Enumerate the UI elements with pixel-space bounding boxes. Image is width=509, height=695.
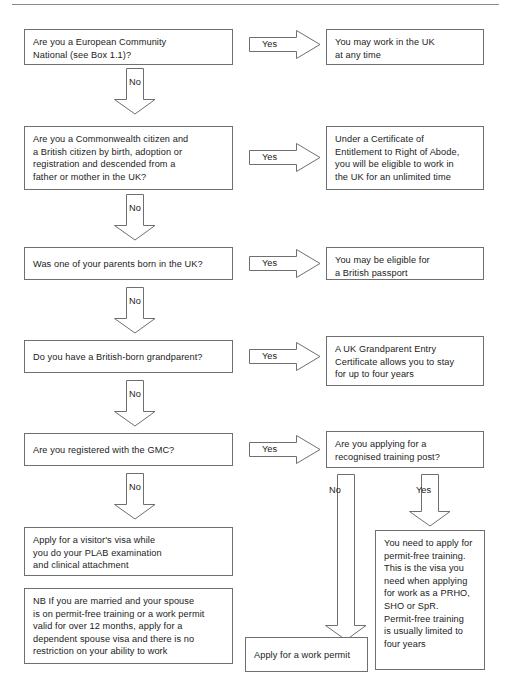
arrow-label-yes-training-post: Yes: [416, 486, 431, 495]
header-rule: [12, 4, 499, 5]
arrow-no-row2: [114, 194, 156, 241]
node-result-nb-spouse: NB If you are married and your spouse is…: [24, 588, 233, 664]
node-result-permit-free-training: You need to apply for permit-free traini…: [375, 530, 485, 670]
arrow-label-yes-row1: Yes: [262, 40, 277, 49]
arrow-label-yes-row2: Yes: [262, 153, 277, 162]
node-result-right-of-abode: Under a Certificate of Entitlement to Ri…: [326, 126, 484, 190]
arrow-yes-training-post: [409, 474, 451, 527]
arrow-yes-row3: [249, 249, 321, 279]
arrow-label-yes-row4: Yes: [262, 352, 277, 361]
arrow-yes-row2: [249, 143, 321, 173]
node-question-parent-born-uk: Was one of your parents born in the UK?: [24, 247, 233, 280]
arrow-yes-row5: [249, 435, 321, 465]
node-question-commonwealth: Are you a Commonwealth citizen and a Bri…: [24, 126, 233, 190]
node-question-ec-national: Are you a European Community National (s…: [24, 29, 233, 65]
node-result-grandparent-entry: A UK Grandparent Entry Certificate allow…: [326, 336, 484, 386]
node-question-training-post: Are you applying for a recognised traini…: [326, 431, 484, 468]
node-result-british-passport: You may be eligible for a British passpo…: [326, 247, 484, 280]
node-question-grandparent: Do you have a British-born grandparent?: [24, 340, 233, 373]
node-result-work-permit: Apply for a work permit: [245, 637, 368, 672]
arrow-no-row3: [114, 287, 156, 334]
arrow-label-no-row3: No: [129, 297, 141, 306]
node-result-visitors-visa: Apply for a visitor's visa while you do …: [24, 527, 233, 576]
arrow-yes-row1: [249, 30, 321, 60]
arrow-no-row5: [114, 473, 156, 520]
arrow-label-no-row2: No: [129, 204, 141, 213]
arrow-label-no-row5: No: [129, 483, 141, 492]
arrow-label-yes-row5: Yes: [262, 445, 277, 454]
arrow-label-yes-row3: Yes: [262, 259, 277, 268]
node-result-work-uk-anytime: You may work in the UK at any time: [326, 29, 484, 65]
arrow-no-row4: [114, 380, 156, 427]
arrow-label-no-training-post: No: [329, 486, 341, 495]
arrow-yes-row4: [249, 342, 321, 372]
arrow-no-training-post: [325, 474, 367, 641]
node-question-gmc: Are you registered with the GMC?: [24, 433, 233, 466]
arrow-label-no-row1: No: [129, 78, 141, 87]
arrow-no-row1: [114, 68, 156, 115]
flowchart-page: Are you a European Community National (s…: [0, 0, 509, 695]
arrow-label-no-row4: No: [129, 390, 141, 399]
